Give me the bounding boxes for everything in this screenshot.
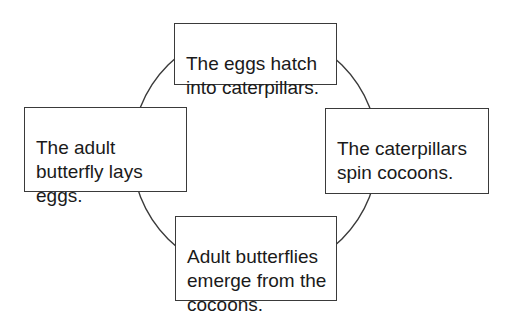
stage-text-caterpillars-spin-cocoons: The caterpillars spin cocoons. bbox=[337, 138, 467, 183]
stage-box-caterpillars-spin-cocoons: The caterpillars spin cocoons. bbox=[325, 108, 489, 194]
stage-box-butterflies-emerge: Adult butterflies emerge from the cocoon… bbox=[175, 216, 337, 301]
stage-box-eggs-hatch: The eggs hatch into caterpillars. bbox=[174, 23, 337, 85]
stage-box-butterfly-lays-eggs: The adult butterfly lays eggs. bbox=[24, 107, 187, 192]
stage-text-eggs-hatch: The eggs hatch into caterpillars. bbox=[186, 53, 319, 98]
